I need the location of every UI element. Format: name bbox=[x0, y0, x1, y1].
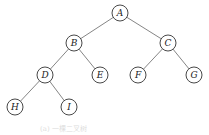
tree-node-C: C bbox=[160, 35, 176, 51]
svg-text:I: I bbox=[66, 102, 71, 112]
tree-node-I: I bbox=[61, 99, 77, 115]
svg-text:H: H bbox=[10, 102, 19, 112]
svg-text:D: D bbox=[40, 70, 48, 80]
tree-edges bbox=[15, 13, 194, 107]
figure-caption: (a) 一棵二叉树 bbox=[40, 123, 87, 133]
svg-text:G: G bbox=[190, 70, 197, 80]
svg-text:E: E bbox=[96, 70, 104, 80]
svg-text:A: A bbox=[116, 8, 124, 18]
tree-node-B: B bbox=[66, 35, 82, 51]
svg-text:C: C bbox=[165, 38, 172, 48]
tree-node-G: G bbox=[186, 67, 202, 83]
svg-text:B: B bbox=[70, 38, 78, 48]
tree-node-F: F bbox=[130, 67, 146, 83]
tree-node-D: D bbox=[37, 67, 53, 83]
edge-A-C bbox=[120, 13, 168, 43]
tree-node-E: E bbox=[92, 67, 108, 83]
svg-text:F: F bbox=[134, 70, 142, 80]
tree-node-A: A bbox=[112, 5, 128, 21]
tree-nodes: ABCDEFGHI bbox=[7, 5, 202, 115]
binary-tree-diagram: ABCDEFGHI bbox=[0, 0, 209, 135]
tree-node-H: H bbox=[7, 99, 23, 115]
